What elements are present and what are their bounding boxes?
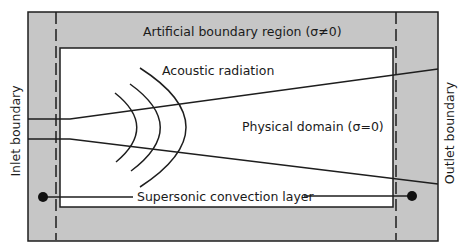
- artificial-region-label: Artificial boundary region (σ≠0): [143, 24, 342, 39]
- acoustic-radiation-label: Acoustic radiation: [162, 63, 274, 78]
- convection-layer-right-point: [407, 191, 417, 201]
- inlet-boundary-label: Inlet boundary: [8, 85, 23, 177]
- physical-domain-label: Physical domain (σ=0): [242, 119, 384, 134]
- domain-diagram: Artificial boundary region (σ≠0) Acousti…: [0, 0, 467, 251]
- outlet-boundary-label: Outlet boundary: [442, 81, 457, 184]
- supersonic-layer-label: Supersonic convection layer: [137, 189, 315, 204]
- convection-layer-left-point: [38, 192, 48, 202]
